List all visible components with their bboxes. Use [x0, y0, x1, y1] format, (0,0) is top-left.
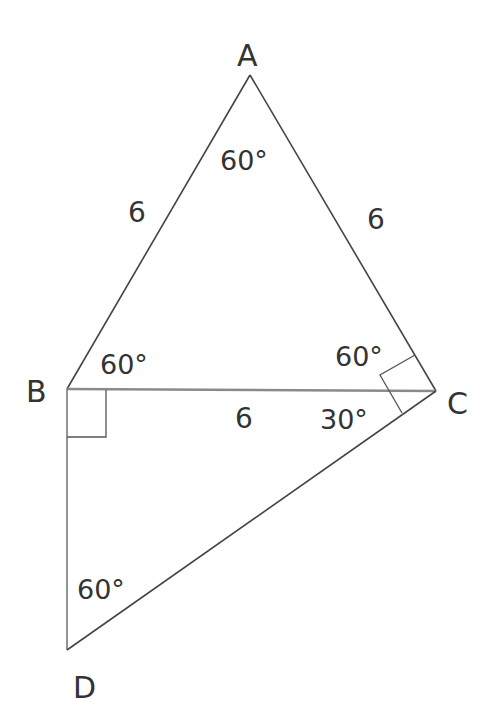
- angle-label-abc: 60°: [100, 349, 148, 380]
- right-angle-marker-b: [67, 390, 106, 437]
- angle-label-bcd: 30°: [320, 404, 368, 435]
- angle-label-acb: 60°: [335, 341, 383, 372]
- vertex-label-c: C: [447, 386, 468, 421]
- side-label-bc: 6: [235, 402, 253, 435]
- geometry-diagram: A B C D 6 6 6 60° 60° 60° 30° 60°: [0, 0, 500, 728]
- right-angle-marker-c: [380, 355, 415, 413]
- side-label-ab: 6: [128, 196, 146, 229]
- segment-bc: [67, 389, 436, 391]
- side-label-ac: 6: [367, 203, 385, 236]
- angle-label-d: 60°: [77, 574, 125, 605]
- vertex-label-a: A: [237, 38, 258, 73]
- segment-ab: [67, 75, 250, 389]
- vertex-label-d: D: [73, 670, 96, 705]
- angle-label-a: 60°: [220, 145, 268, 176]
- vertex-label-b: B: [26, 374, 47, 409]
